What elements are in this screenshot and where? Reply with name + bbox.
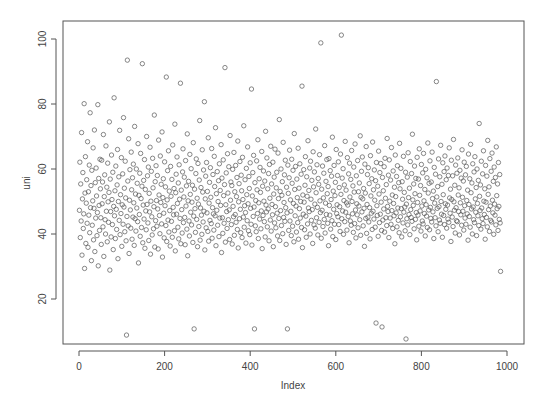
data-point: [459, 176, 463, 180]
data-point: [331, 207, 335, 211]
data-point: [131, 162, 135, 166]
data-point: [280, 179, 284, 183]
data-point: [471, 218, 475, 222]
data-point: [238, 159, 242, 163]
data-point: [493, 175, 497, 179]
data-point: [107, 120, 111, 124]
data-point: [150, 156, 154, 160]
data-point: [128, 208, 132, 212]
data-point: [391, 169, 395, 173]
x-axis: 02004006008001000: [76, 351, 518, 372]
data-point: [484, 215, 488, 219]
data-point: [111, 170, 115, 174]
data-point: [183, 215, 187, 219]
data-point: [272, 192, 276, 196]
data-point: [199, 213, 203, 217]
data-point: [214, 244, 218, 248]
data-point: [170, 177, 174, 181]
data-point: [394, 174, 398, 178]
data-point: [478, 183, 482, 187]
data-point: [468, 225, 472, 229]
data-point: [258, 190, 262, 194]
data-point: [306, 139, 310, 143]
data-point: [267, 239, 271, 243]
data-point: [383, 196, 387, 200]
data-point: [407, 186, 411, 190]
data-point: [286, 163, 290, 167]
data-point: [135, 219, 139, 223]
data-point: [445, 166, 449, 170]
data-point: [150, 215, 154, 219]
data-point: [284, 205, 288, 209]
data-point: [177, 197, 181, 201]
data-point: [132, 243, 136, 247]
data-point: [319, 236, 323, 240]
data-point: [391, 226, 395, 230]
data-point: [218, 188, 222, 192]
data-point: [370, 227, 374, 231]
data-point: [498, 269, 502, 273]
data-point: [186, 179, 190, 183]
data-point: [292, 131, 296, 135]
data-point: [470, 232, 474, 236]
data-point: [334, 147, 338, 151]
data-point: [244, 241, 248, 245]
data-point: [200, 232, 204, 236]
data-point: [160, 130, 164, 134]
data-point: [386, 173, 390, 177]
data-point: [295, 177, 299, 181]
data-point: [462, 160, 466, 164]
data-point: [477, 121, 481, 125]
data-point: [215, 223, 219, 227]
data-point: [483, 187, 487, 191]
data-point: [208, 166, 212, 170]
data-point: [284, 185, 288, 189]
data-point: [212, 154, 216, 158]
data-point: [120, 244, 124, 248]
data-point: [391, 201, 395, 205]
data-point: [374, 321, 378, 325]
data-point: [352, 165, 356, 169]
data-point: [282, 200, 286, 204]
data-point: [360, 155, 364, 159]
data-point: [376, 149, 380, 153]
data-point: [283, 219, 287, 223]
data-point: [283, 158, 287, 162]
data-point: [425, 176, 429, 180]
data-point: [263, 179, 267, 183]
data-point: [419, 162, 423, 166]
data-point: [254, 198, 258, 202]
data-point: [305, 194, 309, 198]
data-point: [482, 212, 486, 216]
data-point: [221, 193, 225, 197]
data-point: [364, 231, 368, 235]
data-point: [433, 172, 437, 176]
data-point: [376, 184, 380, 188]
data-point: [109, 153, 113, 157]
data-point: [168, 164, 172, 168]
data-point: [389, 222, 393, 226]
data-point: [108, 209, 112, 213]
data-point: [344, 188, 348, 192]
data-point: [431, 189, 435, 193]
data-point: [384, 182, 388, 186]
data-point: [275, 170, 279, 174]
data-point: [135, 206, 139, 210]
data-point: [369, 194, 373, 198]
data-point: [259, 227, 263, 231]
data-point: [187, 219, 191, 223]
data-point: [308, 159, 312, 163]
data-point: [99, 216, 103, 220]
data-point: [245, 145, 249, 149]
data-point: [243, 178, 247, 182]
data-point: [351, 184, 355, 188]
data-point: [149, 169, 153, 173]
data-point: [266, 171, 270, 175]
data-point: [247, 186, 251, 190]
data-point: [435, 184, 439, 188]
data-point: [171, 143, 175, 147]
data-point: [295, 195, 299, 199]
data-point: [257, 201, 261, 205]
data-point: [380, 175, 384, 179]
data-point: [161, 195, 165, 199]
